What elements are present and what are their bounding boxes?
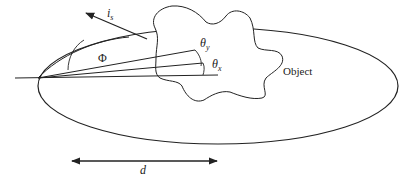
incident-arrow [86, 13, 147, 39]
phi-label: Φ [98, 51, 107, 65]
diagram-canvas: is Φ θy θx Object d [0, 0, 413, 182]
distance-label: d [140, 163, 147, 177]
incident-label: is [107, 6, 113, 22]
phi-arc [68, 40, 84, 70]
object-label: Object [283, 65, 312, 77]
phi-line [38, 37, 129, 78]
